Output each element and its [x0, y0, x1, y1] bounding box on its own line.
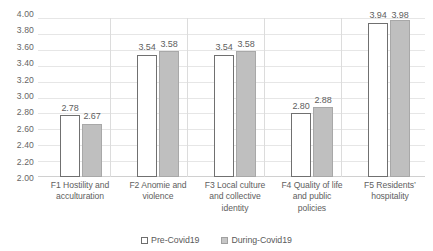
- y-axis-tick-label: 2.20: [0, 157, 34, 166]
- y-axis-tick-label: 3.20: [0, 75, 34, 84]
- y-axis-tick-label: 2.00: [0, 174, 34, 183]
- bar-during-f5: [390, 20, 410, 177]
- bar-value-label: 3.98: [382, 10, 418, 20]
- category-separator: [341, 18, 342, 177]
- y-axis-tick-label: 4.00: [0, 10, 34, 19]
- category-label-f5: F5 Residents’ hospitality: [340, 180, 433, 203]
- bar-pre-f4: [291, 113, 311, 177]
- y-axis: 4.00 3.80 3.60 3.40 3.20 3.00 2.80 2.60 …: [0, 14, 34, 178]
- bar-value-label: 3.58: [151, 39, 187, 49]
- y-axis-tick-label: 2.60: [0, 124, 34, 133]
- category-separator: [187, 18, 188, 177]
- legend-item-pre-covid19[interactable]: Pre-Covid19: [141, 235, 199, 245]
- bar-value-label: 2.67: [74, 111, 110, 121]
- bar-pre-f3: [214, 55, 234, 177]
- legend-label: Pre-Covid19: [151, 235, 199, 245]
- bar-pre-f2: [137, 55, 157, 177]
- bar-pre-f5: [368, 23, 388, 177]
- legend-item-during-covid19[interactable]: During-Covid19: [221, 235, 291, 245]
- bar-value-label: 2.88: [305, 95, 341, 105]
- legend-swatch-open-square-icon: [141, 237, 148, 244]
- plot-area: 2.78 2.67 3.54 3.58 3.54 3.58 2.80 2.88 …: [38, 18, 425, 177]
- y-axis-tick-label: 3.60: [0, 42, 34, 51]
- x-axis-category-labels: F1 Hostility and acculturation F2 Anomie…: [38, 180, 425, 228]
- bar-during-f4: [313, 107, 333, 177]
- y-axis-tick-label: 3.40: [0, 59, 34, 68]
- legend-label: During-Covid19: [231, 235, 291, 245]
- bar-during-f2: [159, 51, 179, 177]
- category-separator: [110, 18, 111, 177]
- category-label-line: F5 Residents’: [340, 180, 433, 191]
- y-axis-tick-label: 3.80: [0, 26, 34, 35]
- bar-during-f3: [236, 51, 256, 177]
- y-axis-tick-label: 3.00: [0, 92, 34, 101]
- bar-chart: 4.00 3.80 3.60 3.40 3.20 3.00 2.80 2.60 …: [0, 0, 433, 251]
- legend-swatch-filled-square-icon: [221, 237, 228, 244]
- chart-legend: Pre-Covid19 During-Covid19: [0, 232, 433, 248]
- bar-pre-f1: [60, 115, 80, 177]
- y-axis-tick-label: 2.40: [0, 141, 34, 150]
- category-label-line: policies: [262, 203, 362, 214]
- bar-during-f1: [82, 124, 102, 177]
- category-separator: [264, 18, 265, 177]
- category-label-line: hospitality: [340, 191, 433, 202]
- gridline: [38, 34, 425, 35]
- y-axis-tick-label: 2.80: [0, 108, 34, 117]
- bar-value-label: 3.58: [228, 39, 264, 49]
